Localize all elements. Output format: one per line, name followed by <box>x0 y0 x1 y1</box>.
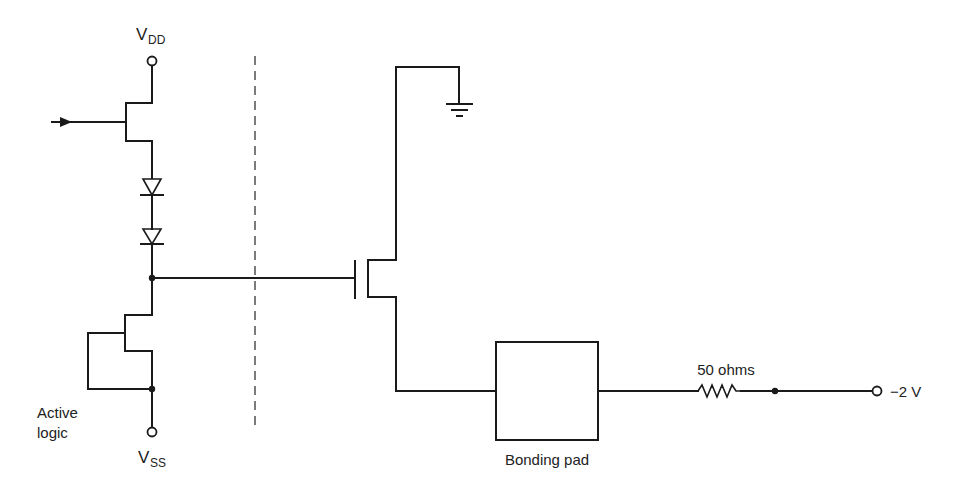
bonding-pad-label: Bonding pad <box>505 451 589 468</box>
diode-1-icon <box>141 179 163 229</box>
upper-fet-icon <box>126 66 152 178</box>
vdd-label: V DD <box>136 25 166 47</box>
active-logic-label-line1: Active <box>37 404 78 421</box>
output-voltage-label: −2 V <box>890 383 921 400</box>
resistor-icon <box>698 385 741 397</box>
output-terminal-icon <box>873 387 882 396</box>
vdd-terminal-icon <box>148 57 157 66</box>
resistor-label: 50 ohms <box>697 361 755 378</box>
diode-2-icon <box>141 229 163 278</box>
lower-fet-icon <box>88 278 152 389</box>
active-logic-label-line2: logic <box>37 424 68 441</box>
vss-label: V SS <box>138 448 166 470</box>
circuit-diagram: V DD V SS Active logic <box>0 0 974 488</box>
vdd-label-sub: DD <box>148 33 166 47</box>
ground-icon <box>396 67 472 116</box>
junction-dot-icon <box>772 388 778 394</box>
output-mosfet-icon <box>355 67 396 391</box>
vss-label-sub: SS <box>150 456 166 470</box>
vss-label-main: V <box>138 448 150 467</box>
vdd-label-main: V <box>136 25 148 44</box>
vss-terminal-icon <box>148 428 157 437</box>
bonding-pad-box <box>496 342 598 440</box>
input-arrow-icon <box>52 117 126 127</box>
